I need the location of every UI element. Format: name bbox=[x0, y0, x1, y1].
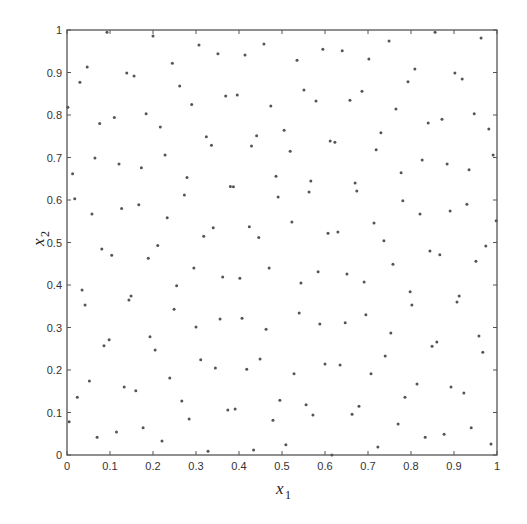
y-tick-label: 0 bbox=[56, 449, 62, 461]
x-tick-label: 0.1 bbox=[102, 460, 117, 472]
data-point bbox=[180, 400, 183, 403]
data-point bbox=[394, 108, 397, 111]
data-point bbox=[453, 71, 456, 74]
data-point bbox=[161, 439, 164, 442]
data-point bbox=[168, 377, 171, 380]
x-tick-label: 0 bbox=[64, 460, 70, 472]
data-point bbox=[268, 267, 271, 270]
data-point bbox=[379, 131, 382, 134]
data-point bbox=[205, 135, 208, 138]
data-point bbox=[277, 196, 280, 199]
data-point bbox=[224, 94, 227, 97]
y-tick-label: 0.2 bbox=[47, 364, 62, 376]
data-point bbox=[449, 386, 452, 389]
x-axis-label-main: x bbox=[275, 479, 284, 498]
data-point bbox=[298, 312, 301, 315]
axes-frame bbox=[67, 30, 497, 455]
data-point bbox=[178, 85, 181, 88]
data-point bbox=[120, 207, 123, 210]
data-point bbox=[271, 419, 274, 422]
data-point bbox=[212, 226, 215, 229]
data-point bbox=[296, 59, 299, 62]
data-point bbox=[98, 122, 101, 125]
data-point bbox=[317, 270, 320, 273]
data-point bbox=[100, 247, 103, 250]
x-tick-label: 0.7 bbox=[360, 460, 375, 472]
data-point bbox=[127, 298, 130, 301]
x-tick-label: 1 bbox=[494, 460, 500, 472]
data-point bbox=[473, 112, 476, 115]
data-point bbox=[113, 116, 116, 119]
data-point bbox=[341, 49, 344, 52]
data-point bbox=[477, 335, 480, 338]
data-point bbox=[123, 386, 126, 389]
data-point bbox=[81, 289, 84, 292]
data-point bbox=[406, 80, 409, 83]
data-point bbox=[71, 172, 74, 175]
data-point bbox=[207, 450, 210, 453]
data-point bbox=[321, 48, 324, 51]
data-point bbox=[421, 159, 424, 162]
data-point bbox=[364, 313, 367, 316]
data-point bbox=[105, 31, 108, 34]
data-point bbox=[400, 171, 403, 174]
x-axis-label: x 1 bbox=[275, 479, 291, 502]
data-point bbox=[84, 303, 87, 306]
data-point bbox=[384, 354, 387, 357]
y-tick-label: 0.3 bbox=[47, 322, 62, 334]
data-point bbox=[351, 413, 354, 416]
data-point bbox=[86, 65, 89, 68]
x-tick-label: 0.9 bbox=[446, 460, 461, 472]
scatter-chart: 00.10.20.30.40.50.60.70.80.91 00.10.20.3… bbox=[0, 0, 527, 524]
data-point bbox=[416, 383, 419, 386]
data-point bbox=[456, 301, 459, 304]
data-point bbox=[329, 139, 332, 142]
data-point bbox=[234, 408, 237, 411]
data-point bbox=[115, 431, 118, 434]
data-point bbox=[145, 112, 148, 115]
data-point bbox=[339, 363, 342, 366]
data-point bbox=[302, 88, 305, 91]
data-point bbox=[140, 166, 143, 169]
data-point bbox=[236, 94, 239, 97]
y-tick-label: 0.4 bbox=[47, 279, 62, 291]
x-axis-label-subscript: 1 bbox=[285, 488, 291, 502]
y-tick-label: 0.1 bbox=[47, 407, 62, 419]
data-point bbox=[373, 221, 376, 224]
x-tick-label: 0.8 bbox=[403, 460, 418, 472]
data-point bbox=[355, 190, 358, 193]
data-point bbox=[73, 197, 76, 200]
data-point bbox=[96, 436, 99, 439]
data-point bbox=[480, 37, 483, 40]
data-point bbox=[202, 235, 205, 238]
data-point bbox=[221, 275, 224, 278]
data-point bbox=[391, 263, 394, 266]
data-point bbox=[327, 232, 330, 235]
data-point bbox=[252, 448, 255, 451]
data-point bbox=[192, 267, 195, 270]
data-point bbox=[283, 129, 286, 132]
data-point bbox=[484, 244, 487, 247]
data-point bbox=[309, 179, 312, 182]
data-point bbox=[199, 358, 202, 361]
data-point bbox=[324, 363, 327, 366]
data-point bbox=[492, 153, 495, 156]
data-point bbox=[210, 144, 213, 147]
data-point bbox=[308, 190, 311, 193]
data-point bbox=[232, 185, 235, 188]
data-point bbox=[255, 134, 258, 137]
data-point bbox=[363, 281, 366, 284]
x-axis-ticks: 00.10.20.30.40.50.60.70.80.91 bbox=[64, 30, 500, 472]
data-point bbox=[462, 391, 465, 394]
data-point bbox=[152, 34, 155, 37]
data-point bbox=[216, 52, 219, 55]
data-point bbox=[148, 335, 151, 338]
data-point bbox=[175, 284, 178, 287]
data-point bbox=[93, 156, 96, 159]
data-point bbox=[238, 277, 241, 280]
data-point bbox=[76, 396, 79, 399]
data-point bbox=[156, 244, 159, 247]
data-point bbox=[102, 344, 105, 347]
data-point bbox=[388, 40, 391, 43]
data-point bbox=[487, 128, 490, 131]
